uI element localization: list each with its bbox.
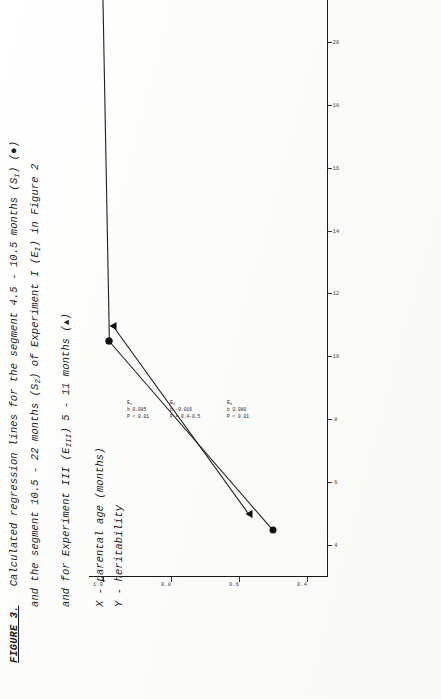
caption-text-2a: and the segment 10.5 - 22 months (S	[29, 384, 41, 608]
scanned-page: 46810121416182022 0.40.60.81.0 E1 b 0.08…	[0, 0, 441, 699]
annotation-e3: E3 b 0.080 P < 0.01	[227, 400, 249, 421]
triangle-marker	[245, 510, 252, 518]
figure-label: FIGURE 3.	[8, 606, 20, 663]
annotation-e3-label: E3	[227, 400, 232, 406]
caption-sub-s2: 2	[34, 379, 42, 384]
annotation-e3-b: b 0.080	[227, 407, 249, 414]
caption-text-3e: )	[60, 313, 72, 319]
caption-text-1c: ) (	[8, 154, 20, 173]
caption-text-1a: Calculated regression lines for the segm…	[8, 178, 20, 587]
caption-key-y: Y - heritability	[111, 23, 129, 663]
caption-line-1: FIGURE 3. Calculated regression lines fo…	[6, 23, 27, 663]
caption-key-x: X - parental age (months)	[92, 23, 110, 663]
caption-text-1e: )	[8, 141, 20, 147]
annotation-e3-p: P < 0.01	[227, 414, 249, 421]
caption-text-2e: ) in Figure 2	[29, 164, 41, 247]
caption-text-2c: ) of Experiment I (E	[29, 251, 41, 379]
circle-marker	[269, 526, 276, 533]
caption-text-3a: and for Experiment III (E	[60, 447, 72, 607]
figure-caption-block: FIGURE 3. Calculated regression lines fo…	[0, 0, 150, 699]
annotation-e2-p: P = 0.4-0.5	[170, 414, 200, 421]
filled-circle-icon: ●	[8, 147, 20, 154]
caption-line-3: and for Experiment III (EIII) 5 - 11 mon…	[58, 23, 79, 663]
caption-sub-eiii: III	[65, 434, 73, 448]
annotation-e2: E2 b -0.016 P = 0.4-0.5	[170, 400, 200, 421]
caption-sub-s1: 1	[13, 173, 21, 178]
annotation-e2-label: E2	[170, 400, 175, 406]
annotation-e2-b: b -0.016	[170, 407, 200, 414]
caption-line-2: and the segment 10.5 - 22 months (S2) of…	[27, 23, 48, 663]
caption-sub-ei: I	[34, 247, 42, 252]
caption-text-3c: ) 5 - 11 months (	[60, 325, 72, 434]
filled-triangle-icon: ▲	[62, 319, 72, 325]
